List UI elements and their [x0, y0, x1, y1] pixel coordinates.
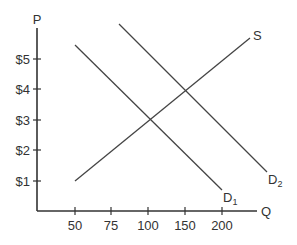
y-tick-3: $3: [16, 113, 30, 128]
x-tick-75: 75: [104, 218, 118, 233]
demand-curve-d2: [119, 24, 267, 172]
supply-curve: [75, 38, 250, 181]
y-tick-5: $5: [16, 52, 30, 67]
x-tick-150: 150: [174, 218, 196, 233]
demand-curve-d1: [75, 45, 222, 190]
y-tick-4: $4: [16, 82, 30, 97]
supply-demand-chart: P Q $5 $4 $3 $2 $1 50 75 100 150 200 S D…: [0, 0, 297, 245]
d1-label: D1: [223, 190, 237, 207]
d2-label: D2: [268, 172, 282, 189]
x-tick-200: 200: [211, 218, 233, 233]
p-axis-label: P: [33, 12, 42, 27]
y-tick-2: $2: [16, 143, 30, 158]
x-tick-100: 100: [137, 218, 159, 233]
x-tick-50: 50: [68, 218, 82, 233]
y-tick-1: $1: [16, 174, 30, 189]
supply-label: S: [253, 28, 262, 43]
q-axis-label: Q: [261, 204, 271, 219]
